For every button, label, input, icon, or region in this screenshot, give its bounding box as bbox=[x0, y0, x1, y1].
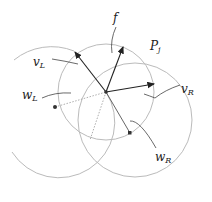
label-vr: vR bbox=[181, 82, 194, 97]
point-wr bbox=[128, 131, 132, 135]
dotted-line-down bbox=[90, 92, 106, 140]
arrow-vr bbox=[106, 84, 154, 92]
label-wl: wL bbox=[22, 88, 38, 103]
label-f: f bbox=[112, 11, 120, 25]
point-wl bbox=[53, 105, 57, 109]
leader-vr bbox=[144, 85, 180, 98]
leader-wl bbox=[42, 93, 71, 98]
line-wr bbox=[106, 92, 130, 133]
arc-wl bbox=[14, 47, 74, 60]
leader-f bbox=[112, 27, 117, 53]
leader-vl bbox=[52, 59, 78, 64]
center-point bbox=[104, 90, 108, 94]
circle-wr bbox=[78, 63, 192, 177]
diagram-canvas: f vL wL vR wR Pj bbox=[0, 0, 212, 202]
leader-wr bbox=[130, 121, 156, 148]
label-vl: vL bbox=[33, 55, 45, 70]
label-pj: Pj bbox=[149, 39, 161, 54]
label-wr: wR bbox=[155, 150, 171, 165]
arrow-vl bbox=[75, 52, 106, 92]
